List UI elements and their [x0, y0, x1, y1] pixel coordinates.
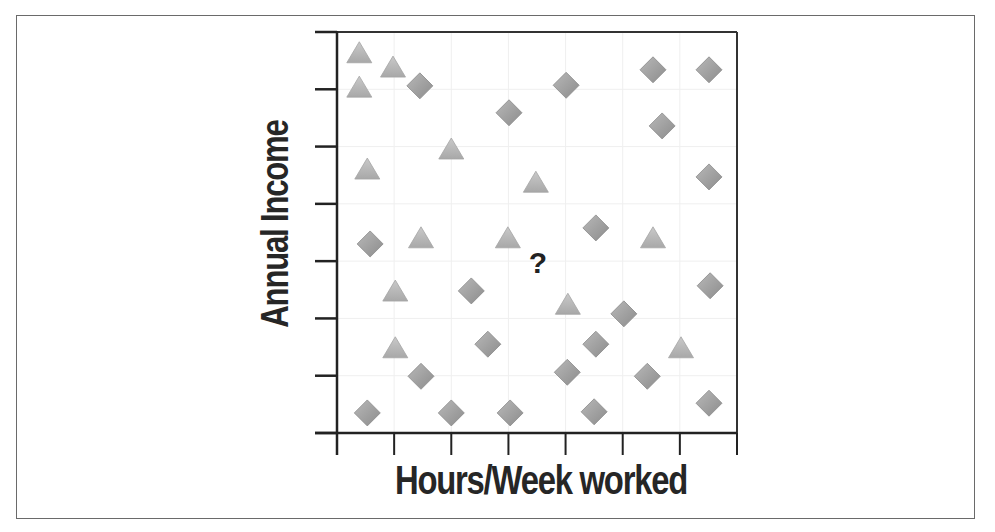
- question-mark-annotation: ?: [529, 246, 547, 280]
- diamond-marker: [475, 331, 501, 357]
- diamond-marker: [696, 390, 722, 416]
- diamond-marker: [408, 363, 434, 389]
- scatter-plot: [0, 0, 995, 532]
- triangle-marker: [383, 280, 408, 301]
- diamond-marker: [640, 57, 666, 83]
- triangle-marker: [669, 337, 694, 358]
- diamond-marker: [583, 215, 609, 241]
- diamond-marker: [697, 273, 723, 299]
- diamond-marker: [407, 73, 433, 99]
- diamond-marker: [583, 331, 609, 357]
- diamond-marker: [649, 113, 675, 139]
- triangle-marker: [347, 42, 372, 63]
- diamond-marker: [696, 57, 722, 83]
- diamond-marker: [611, 301, 637, 327]
- triangle-marker: [641, 227, 666, 248]
- triangle-marker: [347, 76, 372, 97]
- diamond-marker: [354, 400, 380, 426]
- data-points: [347, 42, 723, 426]
- diamond-marker: [496, 100, 522, 126]
- grid-lines: [337, 32, 737, 433]
- triangle-marker: [383, 337, 408, 358]
- triangle-marker: [381, 56, 406, 77]
- diamond-marker: [696, 164, 722, 190]
- diamond-marker: [553, 72, 579, 98]
- triangle-marker: [355, 158, 380, 179]
- diamond-marker: [357, 231, 383, 257]
- diamond-marker: [438, 400, 464, 426]
- diamond-marker: [581, 399, 607, 425]
- triangle-marker: [555, 293, 580, 314]
- diamond-marker: [497, 400, 523, 426]
- y-axis-label: Annual Income: [254, 98, 297, 351]
- x-axis-label: Hours/Week worked: [363, 458, 719, 503]
- triangle-marker: [523, 171, 548, 192]
- triangle-marker: [495, 227, 520, 248]
- diamond-marker: [554, 359, 580, 385]
- diamond-marker: [634, 363, 660, 389]
- triangle-marker: [409, 227, 434, 248]
- triangle-marker: [439, 138, 464, 159]
- diamond-marker: [458, 278, 484, 304]
